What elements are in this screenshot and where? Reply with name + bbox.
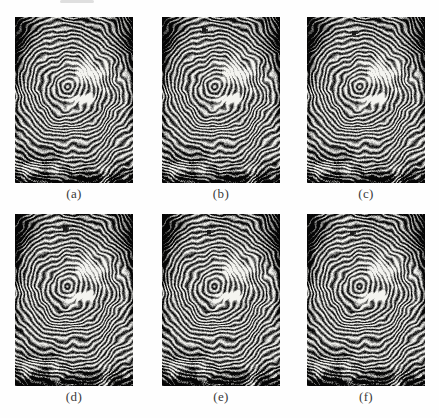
subfigure-label: (b) <box>162 187 280 201</box>
subfigure-label: (d) <box>15 390 133 404</box>
fingerprint-image <box>162 214 280 386</box>
subfigure-c: (c) <box>307 17 425 201</box>
subfigure-d: (d) <box>15 214 133 404</box>
subfigure-a: (a) <box>15 17 133 201</box>
figure-page: (a) (b) (c) (d) (e) (f) <box>0 0 439 418</box>
fingerprint-image <box>15 214 133 386</box>
fingerprint-image <box>307 17 425 183</box>
subfigure-label: (e) <box>162 390 280 404</box>
subfigure-label: (a) <box>15 187 133 201</box>
subfigure-e: (e) <box>162 214 280 404</box>
subfigure-label: (c) <box>307 187 425 201</box>
cropped-text-artifact <box>60 0 94 3</box>
fingerprint-image <box>307 214 425 386</box>
fingerprint-image <box>15 17 133 183</box>
subfigure-b: (b) <box>162 17 280 201</box>
subfigure-label: (f) <box>307 390 425 404</box>
fingerprint-image <box>162 17 280 183</box>
subfigure-f: (f) <box>307 214 425 404</box>
